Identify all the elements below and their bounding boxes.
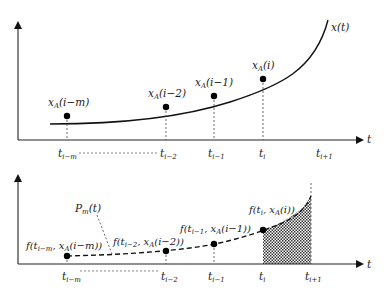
point-label: xA(i) [252, 59, 275, 73]
tick-label: ti−2 [161, 270, 178, 284]
tick-label: ti−m [62, 270, 81, 284]
f-point-label: f(ti−2, xA(i−2)) [112, 236, 184, 249]
tick-label: ti [259, 147, 265, 161]
point-label: xA(i−2) [148, 87, 186, 101]
f-point [211, 241, 217, 247]
tick-label: ti [259, 270, 265, 284]
solution-curve [50, 20, 328, 124]
tick-label: ti+1 [316, 147, 333, 161]
approx-point [211, 93, 217, 99]
approx-point [260, 76, 266, 82]
f-point-label: f(ti, xA(i)) [248, 204, 295, 217]
bottom-plot: t Pm(t) f(ti−m, xA(i−m)) f(ti−2, xA(i−2)… [18, 176, 372, 284]
point-label: xA(i−m) [48, 96, 89, 110]
tick-label: ti+1 [305, 270, 322, 284]
f-point-label: f(ti−m, xA(i−m)) [25, 240, 102, 253]
solution-curve-label: x(t) [331, 21, 349, 33]
f-point [64, 253, 70, 259]
tick-label: ti−1 [208, 270, 225, 284]
f-point [260, 227, 266, 233]
top-plot: t x(t) xA(i−m) xA(i−2) xA(i−1) xA(i) ti−… [18, 20, 372, 161]
bottom-x-axis-label: t [367, 258, 372, 270]
top-x-axis-label: t [367, 133, 372, 145]
approx-point [163, 104, 169, 110]
tick-label: ti−2 [160, 147, 177, 161]
point-label: xA(i−1) [195, 76, 233, 90]
tick-label: ti−m [58, 147, 77, 161]
integration-diagram: t x(t) xA(i−m) xA(i−2) xA(i−1) xA(i) ti−… [0, 0, 389, 296]
f-point-label: f(ti−1, xA(i−1)) [179, 223, 251, 236]
f-point [163, 248, 169, 254]
approx-point [64, 113, 70, 119]
tick-label: ti−1 [208, 147, 225, 161]
interpolant-label: Pm(t) [74, 202, 101, 216]
